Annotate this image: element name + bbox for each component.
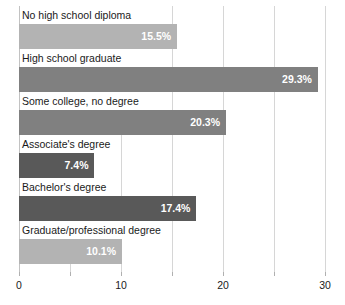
bar-value-label: 10.1% — [86, 239, 116, 264]
bar-value-label: 7.4% — [65, 153, 89, 178]
x-tick-label-30: 30 — [319, 279, 331, 291]
x-tick-label-10: 10 — [115, 279, 127, 291]
plot-area: No high school diploma15.5%High school g… — [19, 6, 325, 272]
bar-row: Graduate/professional degree10.1% — [19, 221, 325, 264]
x-tick-mark-20 — [223, 272, 224, 276]
bar-chart: No high school diploma15.5%High school g… — [0, 0, 345, 305]
x-tick-label-20: 20 — [217, 279, 229, 291]
bar: 20.3% — [19, 110, 226, 135]
bar-row: Some college, no degree20.3% — [19, 92, 325, 135]
x-tick-mark-30 — [325, 272, 326, 276]
bar-value-label: 29.3% — [282, 67, 312, 92]
x-tick-mark-0 — [19, 272, 20, 276]
bar-category-label: Bachelor's degree — [21, 178, 109, 196]
x-tick-mark-5 — [70, 272, 71, 276]
bar-value-label: 15.5% — [141, 24, 171, 49]
bar-row: Associate's degree7.4% — [19, 135, 325, 178]
bar: 15.5% — [19, 24, 177, 49]
x-tick-mark-10 — [121, 272, 122, 276]
bar-category-label: Associate's degree — [21, 135, 113, 153]
bars-layer: No high school diploma15.5%High school g… — [19, 6, 325, 272]
x-axis: 0102030 — [19, 272, 325, 302]
bar: 17.4% — [19, 196, 196, 221]
gridline-30 — [325, 6, 326, 272]
bar-value-label: 20.3% — [190, 110, 220, 135]
bar: 10.1% — [19, 239, 122, 264]
bar-category-label: Some college, no degree — [21, 92, 142, 110]
bar-value-label: 17.4% — [161, 196, 191, 221]
bar: 29.3% — [19, 67, 318, 92]
bar-row: High school graduate29.3% — [19, 49, 325, 92]
bar-category-label: High school graduate — [21, 49, 124, 67]
bar-category-label: Graduate/professional degree — [21, 221, 164, 239]
x-tick-label-0: 0 — [16, 279, 22, 291]
bar-row: Bachelor's degree17.4% — [19, 178, 325, 221]
x-tick-mark-15 — [172, 272, 173, 276]
bar-category-label: No high school diploma — [21, 6, 134, 24]
bar: 7.4% — [19, 153, 94, 178]
bar-row: No high school diploma15.5% — [19, 6, 325, 49]
x-tick-mark-25 — [274, 272, 275, 276]
